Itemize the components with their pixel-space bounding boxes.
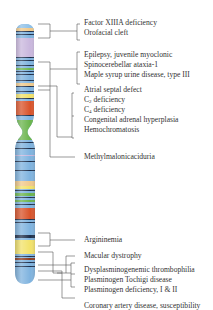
gene-label-dysplasminogenemic: Dysplasminogenemic thrombophilia (84, 265, 195, 275)
gene-label-c2-deficiency: C2 deficiency (84, 95, 125, 105)
gene-label-orofacial-cleft: Orofacial cleft (84, 28, 128, 38)
gene-label-plasminogen-tochigi: Plasminogen Tochigi disease (84, 275, 172, 285)
c4-subscript: 4 (89, 109, 92, 114)
gene-label-cah: Congenital adrenal hyperplasia (84, 115, 178, 125)
gene-label-msud: Maple syrup urine disease, type III (84, 70, 190, 80)
gene-label-argininemia: Argininemia (84, 235, 122, 245)
gene-label-macular-dystrophy: Macular dystrophy (84, 251, 142, 261)
gene-label-plasminogen-deficiency: Plasminogen deficiency, I & II (84, 285, 177, 295)
gene-label-methylmalonicaciduria: Methylmalonicaciduria (84, 152, 155, 162)
gene-label-c4-deficiency: C4 deficiency (84, 105, 125, 115)
c2-subscript: 2 (89, 99, 92, 104)
gene-label-hemochromatosis: Hemochromatosis (84, 125, 139, 135)
gene-label-sca1: Spinocerebellar ataxia-1 (84, 60, 158, 70)
gene-label-atrial-septal-defect: Atrial septal defect (84, 85, 142, 95)
gene-label-coronary-artery-disease: Coronary artery disease, susceptibility (84, 301, 200, 310)
gene-label-epilepsy: Epilepsy, juvenile myoclonic (84, 50, 172, 60)
gene-label-factor-xiiia: Factor XIIIA deficiency (84, 18, 157, 28)
